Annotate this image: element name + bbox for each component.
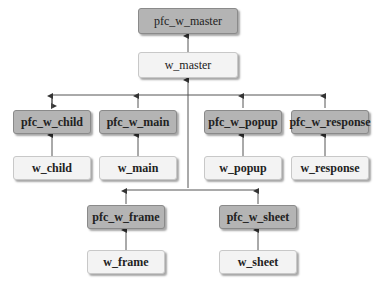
node-pfc-w-frame: pfc_w_frame bbox=[87, 205, 165, 229]
node-pfc-w-child: pfc_w_child bbox=[13, 110, 91, 134]
node-pfc-w-main: pfc_w_main bbox=[99, 110, 177, 134]
node-w-main: w_main bbox=[99, 156, 177, 180]
node-w-master: w_master bbox=[138, 52, 238, 78]
node-w-popup: w_popup bbox=[204, 156, 282, 180]
node-pfc-w-master: pfc_w_master bbox=[138, 8, 238, 34]
node-w-response: w_response bbox=[291, 156, 369, 180]
connector-lines bbox=[0, 0, 382, 285]
node-pfc-w-popup: pfc_w_popup bbox=[204, 110, 282, 134]
node-w-frame: w_frame bbox=[87, 250, 165, 274]
node-w-sheet: w_sheet bbox=[219, 250, 297, 274]
node-w-child: w_child bbox=[13, 156, 91, 180]
node-pfc-w-sheet: pfc_w_sheet bbox=[219, 205, 297, 229]
node-pfc-w-response: pfc_w_response bbox=[291, 110, 369, 134]
